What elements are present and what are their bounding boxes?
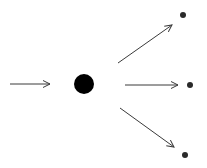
output-arrows [118, 25, 178, 147]
output-arrow-1 [118, 25, 172, 63]
output-arrow-3 [120, 108, 174, 147]
target-node-1 [180, 12, 186, 18]
target-node-2 [187, 82, 193, 88]
fan-out-diagram [0, 0, 207, 168]
target-node-3 [182, 152, 188, 158]
source-node [74, 74, 94, 94]
target-nodes [180, 12, 193, 158]
